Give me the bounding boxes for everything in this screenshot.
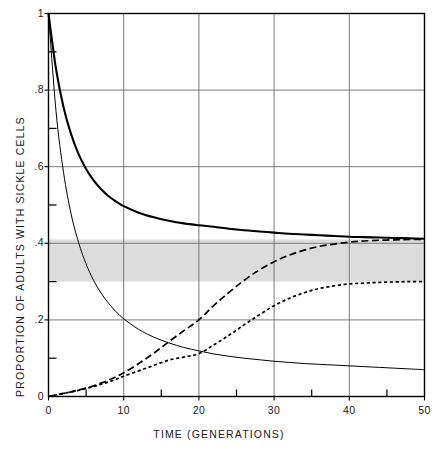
x-tick-label: 30 xyxy=(259,404,289,416)
x-tick-label: 50 xyxy=(410,404,438,416)
equilibrium-band xyxy=(49,239,425,281)
y-tick-label: .4 xyxy=(20,236,44,248)
y-tick-label: .2 xyxy=(20,313,44,325)
x-tick-label: 20 xyxy=(184,404,214,416)
x-tick-label: 10 xyxy=(109,404,139,416)
plot-frame xyxy=(49,14,425,397)
y-tick-label: 1 xyxy=(20,7,44,19)
series-line-0 xyxy=(49,14,425,239)
y-tick-label: 0 xyxy=(20,390,44,402)
chart-canvas xyxy=(0,0,438,449)
x-axis-title: TIME (GENERATIONS) xyxy=(0,428,438,440)
x-tick-label: 0 xyxy=(34,404,64,416)
sickle-cell-proportion-chart: PROPORTION OF ADULTS WITH SICKLE CELLS T… xyxy=(0,0,438,449)
y-tick-label: .6 xyxy=(20,160,44,172)
y-tick-label: .8 xyxy=(20,83,44,95)
x-tick-label: 40 xyxy=(334,404,364,416)
y-axis-title: PROPORTION OF ADULTS WITH SICKLE CELLS xyxy=(14,116,26,397)
